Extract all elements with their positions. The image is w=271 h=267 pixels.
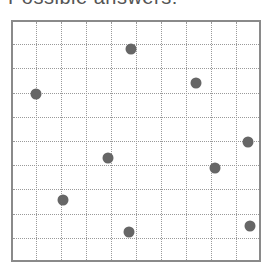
answer-grid[interactable] [11, 20, 261, 262]
grid-line-horizontal [13, 141, 259, 142]
point-marker[interactable] [245, 221, 256, 232]
point-marker[interactable] [103, 153, 114, 164]
grid-line-horizontal [13, 238, 259, 239]
point-marker[interactable] [124, 227, 135, 238]
grid-line-horizontal [13, 68, 259, 69]
grid-line-horizontal [13, 44, 259, 45]
point-marker[interactable] [191, 78, 202, 89]
prompt-title: Possible answers: [8, 0, 178, 9]
grid-line-horizontal [13, 165, 259, 166]
point-marker[interactable] [58, 195, 69, 206]
grid-line-horizontal [13, 189, 259, 190]
grid-line-horizontal [13, 214, 259, 215]
point-marker[interactable] [126, 44, 137, 55]
grid-line-horizontal [13, 117, 259, 118]
point-marker[interactable] [243, 137, 254, 148]
point-marker[interactable] [210, 163, 221, 174]
point-marker[interactable] [31, 89, 42, 100]
grid-line-horizontal [13, 93, 259, 94]
